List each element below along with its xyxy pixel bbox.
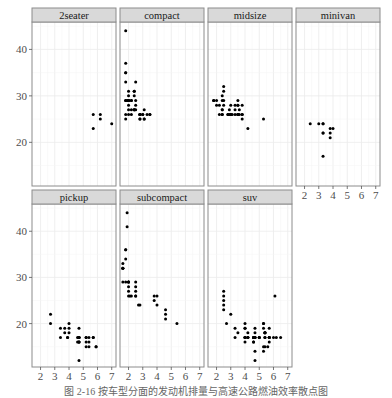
data-point bbox=[87, 345, 90, 348]
data-point bbox=[263, 345, 266, 348]
x-tick-label: 7 bbox=[197, 370, 203, 380]
data-point bbox=[229, 104, 232, 107]
data-point bbox=[246, 127, 249, 130]
facet-panel-pickup: pickup203040234567 bbox=[16, 190, 116, 380]
facet-strip-label: suv bbox=[243, 192, 258, 203]
data-point bbox=[221, 113, 224, 116]
data-point bbox=[127, 281, 130, 284]
facet-strip-label: minivan bbox=[321, 10, 356, 21]
x-tick-label: 2 bbox=[302, 189, 308, 201]
data-point bbox=[138, 304, 141, 307]
x-tick-label: 2 bbox=[214, 370, 220, 380]
data-point bbox=[222, 294, 225, 297]
x-tick-label: 5 bbox=[81, 370, 87, 380]
y-tick-label: 40 bbox=[16, 225, 28, 237]
data-point bbox=[138, 113, 141, 116]
data-point bbox=[133, 94, 136, 97]
data-point bbox=[309, 122, 312, 125]
data-point bbox=[273, 294, 276, 297]
facet-panel-compact: compact bbox=[120, 8, 204, 186]
data-point bbox=[222, 299, 225, 302]
data-point bbox=[68, 322, 71, 325]
data-point bbox=[153, 294, 156, 297]
data-point bbox=[156, 294, 159, 297]
x-tick-label: 5 bbox=[169, 370, 175, 380]
data-point bbox=[222, 90, 225, 93]
data-point bbox=[134, 285, 137, 288]
data-point bbox=[268, 336, 271, 339]
data-point bbox=[322, 132, 325, 135]
data-point bbox=[133, 90, 136, 93]
x-tick-label: 7 bbox=[373, 189, 379, 201]
data-point bbox=[329, 127, 332, 130]
data-point bbox=[241, 118, 244, 121]
x-tick-label: 6 bbox=[183, 370, 189, 380]
data-point bbox=[253, 331, 256, 334]
data-point bbox=[244, 341, 247, 344]
data-point bbox=[221, 108, 224, 111]
data-point bbox=[124, 248, 127, 251]
data-point bbox=[329, 132, 332, 135]
data-point bbox=[95, 345, 98, 348]
data-point bbox=[99, 113, 102, 116]
data-point bbox=[128, 294, 131, 297]
data-point bbox=[130, 113, 133, 116]
data-point bbox=[279, 336, 282, 339]
data-point bbox=[229, 313, 232, 316]
x-tick-label: 4 bbox=[242, 370, 248, 380]
data-point bbox=[244, 322, 247, 325]
data-point bbox=[77, 327, 80, 330]
data-point bbox=[126, 211, 129, 214]
data-point bbox=[134, 104, 137, 107]
data-point bbox=[121, 267, 124, 270]
x-tick-label: 3 bbox=[316, 189, 322, 201]
data-point bbox=[222, 290, 225, 293]
figure-caption: 图 2-16 按车型分面的发动机排量与高速公路燃油效率散点图 bbox=[0, 383, 392, 398]
data-point bbox=[153, 299, 156, 302]
data-point bbox=[241, 113, 244, 116]
data-point bbox=[222, 304, 225, 307]
data-point bbox=[77, 359, 80, 362]
data-point bbox=[266, 345, 269, 348]
data-point bbox=[143, 118, 146, 121]
data-point bbox=[76, 341, 79, 344]
data-point bbox=[92, 113, 95, 116]
facet-panel-2seater: 2seater203040 bbox=[16, 8, 116, 186]
data-point bbox=[262, 350, 265, 353]
x-tick-label: 6 bbox=[271, 370, 277, 380]
data-point bbox=[134, 290, 137, 293]
data-point bbox=[164, 308, 167, 311]
data-point bbox=[329, 136, 332, 139]
data-point bbox=[87, 341, 90, 344]
data-point bbox=[126, 225, 129, 228]
data-point bbox=[238, 108, 241, 111]
data-point bbox=[234, 113, 237, 116]
data-point bbox=[127, 94, 130, 97]
data-point bbox=[124, 118, 127, 121]
data-point bbox=[156, 304, 159, 307]
data-point bbox=[222, 104, 225, 107]
data-point bbox=[175, 322, 178, 325]
data-point bbox=[127, 90, 130, 93]
data-point bbox=[133, 108, 136, 111]
data-point bbox=[222, 85, 225, 88]
data-point bbox=[130, 108, 133, 111]
data-point bbox=[275, 336, 278, 339]
data-point bbox=[127, 290, 130, 293]
data-point bbox=[262, 118, 265, 121]
data-point bbox=[85, 336, 88, 339]
data-point bbox=[134, 99, 137, 102]
data-point bbox=[215, 104, 218, 107]
data-point bbox=[85, 341, 88, 344]
data-point bbox=[92, 127, 95, 130]
data-point bbox=[236, 113, 239, 116]
data-point bbox=[92, 336, 95, 339]
data-point bbox=[146, 113, 149, 116]
x-tick-label: 3 bbox=[228, 370, 234, 380]
data-point bbox=[124, 29, 127, 32]
data-point bbox=[253, 350, 256, 353]
data-point bbox=[258, 336, 261, 339]
y-tick-label: 30 bbox=[16, 90, 28, 102]
facet-strip-label: subcompact bbox=[137, 192, 187, 203]
data-point bbox=[226, 113, 229, 116]
